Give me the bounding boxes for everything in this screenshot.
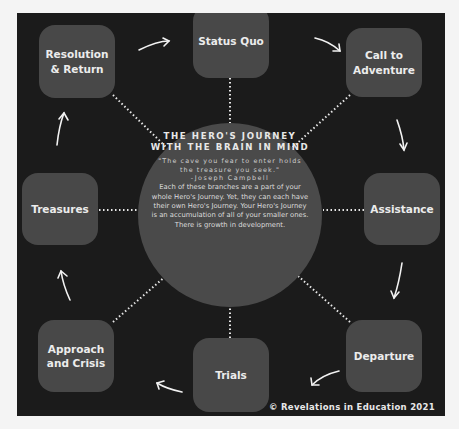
stage-label: Call to Adventure [348, 48, 420, 76]
stage-assistance: Assistance [364, 173, 440, 245]
center-content: THE HERO'S JOURNEY WITH THE BRAIN IN MIN… [150, 131, 310, 230]
diagram-canvas: THE HERO'S JOURNEY WITH THE BRAIN IN MIN… [17, 13, 445, 416]
stage-label: Approach and Crisis [40, 342, 112, 370]
stage-label: Departure [354, 349, 414, 363]
stage-departure: Departure [346, 320, 422, 392]
stage-label: Trials [215, 368, 247, 382]
arrow-icon [315, 38, 340, 51]
stage-approach-and-crisis: Approach and Crisis [38, 320, 114, 392]
center-quote: "The cave you fear to enter holds the tr… [150, 157, 310, 174]
center-title: THE HERO'S JOURNEY WITH THE BRAIN IN MIN… [150, 131, 310, 152]
stage-label: Resolution & Return [41, 47, 113, 75]
quote-author: -Joseph Campbell [150, 174, 310, 182]
arrow-icon [157, 383, 182, 392]
stage-treasures: Treasures [22, 173, 98, 245]
stage-label: Assistance [370, 202, 433, 216]
center-body: Each of these branches are a part of you… [150, 183, 310, 230]
stage-call-to-adventure: Call to Adventure [346, 28, 422, 97]
stage-trials: Trials [193, 338, 269, 412]
copyright-text: © Revelations in Education 2021 [269, 402, 435, 412]
stage-label: Status Quo [198, 34, 264, 48]
stage-label: Treasures [31, 202, 89, 216]
arrow-icon [312, 371, 339, 385]
stage-resolution-and-return: Resolution & Return [39, 25, 115, 98]
stage-status-quo: Status Quo [193, 13, 269, 78]
